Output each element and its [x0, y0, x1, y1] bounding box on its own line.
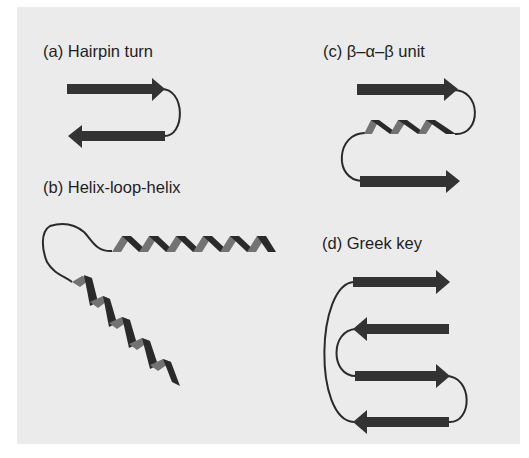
alpha-helix-horizontal	[112, 236, 276, 252]
helix-loop-helix-diagram	[43, 224, 276, 386]
alpha-helix	[364, 120, 456, 134]
connecting-loop	[43, 224, 112, 282]
alpha-helix-diagonal	[72, 275, 180, 386]
greek-key-diagram	[324, 270, 466, 434]
beta-strand-2-left	[353, 317, 449, 341]
beta-strand-1-right	[353, 270, 450, 294]
short-loop-right	[446, 376, 467, 422]
beta-strand-arrow-bottom	[360, 170, 460, 193]
hairpin-turn-diagram	[67, 78, 180, 148]
diagram-artwork	[0, 0, 529, 458]
beta-strand-4-left	[353, 410, 449, 434]
short-loop-left	[337, 329, 357, 376]
loop-left	[342, 133, 366, 181]
beta-strand-arrow-left	[68, 125, 165, 148]
beta-strand-3-right	[355, 364, 450, 388]
long-loop-left	[324, 282, 354, 422]
loop-top-right	[452, 90, 475, 134]
beta-alpha-beta-diagram	[342, 78, 475, 193]
hairpin-loop	[160, 89, 180, 136]
beta-strand-arrow-top	[357, 78, 458, 101]
beta-strand-arrow-right	[67, 78, 165, 101]
